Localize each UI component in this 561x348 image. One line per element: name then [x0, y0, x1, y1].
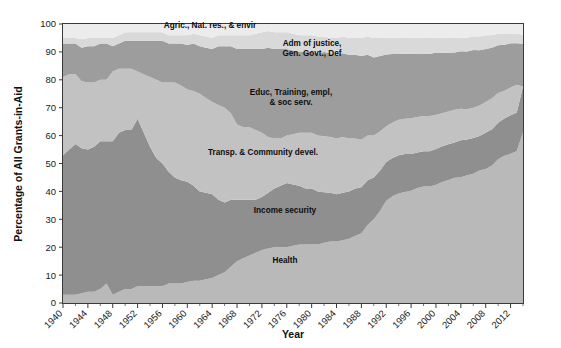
chart-figure: 0102030405060708090100194019441948195219… — [0, 0, 561, 348]
band-label: Adm of justice,Gen. Govt., Def — [282, 39, 341, 58]
band-label: Transp. & Community devel. — [208, 148, 318, 157]
band-label: Income security — [254, 206, 317, 215]
stacked-area-chart: 0102030405060708090100194019441948195219… — [0, 0, 561, 348]
y-tick-label: 70 — [45, 102, 56, 113]
y-tick-label: 0 — [51, 297, 56, 308]
y-tick-label: 100 — [40, 18, 56, 29]
y-tick-label: 50 — [45, 158, 56, 169]
y-tick-label: 20 — [45, 242, 56, 253]
band-label: Health — [272, 256, 297, 265]
y-tick-label: 80 — [45, 74, 56, 85]
y-tick-label: 90 — [45, 46, 56, 57]
band-label: Agric., Nat. res., & envir — [164, 21, 257, 30]
y-tick-label: 60 — [45, 130, 56, 141]
y-axis-title: Percentage of All Grants-in-Aid — [12, 86, 24, 241]
y-tick-label: 40 — [45, 186, 56, 197]
y-tick-label: 30 — [45, 214, 56, 225]
x-axis-title: Year — [282, 328, 304, 340]
y-tick-label: 10 — [45, 270, 56, 281]
